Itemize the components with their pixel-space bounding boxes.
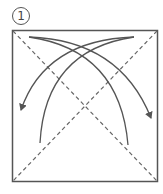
fold-arc-1	[29, 37, 128, 145]
fold-arc-2	[40, 37, 134, 143]
fold-diagram	[0, 0, 163, 194]
fold-arrow-1	[29, 37, 151, 118]
